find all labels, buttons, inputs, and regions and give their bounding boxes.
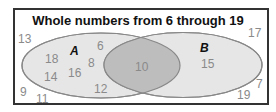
number-10: 10 [135, 60, 148, 74]
number-8: 8 [88, 56, 95, 70]
number-6: 6 [97, 39, 104, 53]
number-12: 12 [94, 82, 107, 96]
number-16: 16 [68, 66, 81, 80]
number-15: 15 [201, 57, 214, 71]
number-13: 13 [18, 32, 31, 46]
number-14: 14 [44, 70, 57, 84]
set-a-label: A [70, 44, 79, 58]
number-18: 18 [45, 52, 58, 66]
diagram-title: Whole numbers from 6 through 19 [0, 13, 276, 28]
number-19: 19 [237, 88, 250, 102]
number-7: 7 [256, 77, 263, 91]
set-b-label: B [200, 41, 209, 55]
number-9: 9 [20, 85, 27, 99]
number-17: 17 [248, 26, 261, 40]
number-11: 11 [36, 92, 48, 106]
